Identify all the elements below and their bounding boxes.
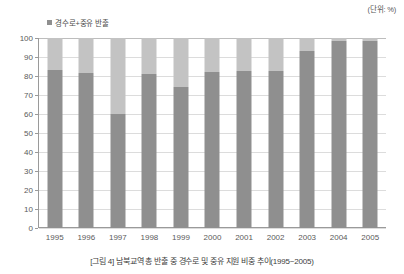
- bar-segment-reactor-oil: [142, 74, 157, 228]
- stacked-bar[interactable]: [331, 38, 346, 228]
- x-axis-tick-label: 1996: [77, 233, 95, 242]
- bar-slot: [291, 38, 323, 228]
- bar-segment-other: [205, 38, 220, 72]
- y-tick-mark: [35, 76, 38, 77]
- bar-slot: [323, 38, 355, 228]
- x-axis-tick-label: 2000: [204, 233, 222, 242]
- y-tick-mark: [35, 133, 38, 134]
- y-tick-mark: [35, 57, 38, 58]
- y-tick-mark: [35, 171, 38, 172]
- stacked-bar[interactable]: [142, 38, 157, 228]
- bar-segment-other: [142, 38, 157, 74]
- chart-legend: 경수로+중유 반출: [47, 17, 109, 28]
- x-axis-tick-label: 2005: [361, 233, 379, 242]
- bar-segment-other: [110, 38, 125, 114]
- y-tick-mark: [35, 228, 38, 229]
- bar-segment-reactor-oil: [268, 71, 283, 228]
- bar-segment-reactor-oil: [300, 51, 315, 228]
- bar-segment-other: [268, 38, 283, 71]
- bar-segment-reactor-oil: [363, 41, 378, 228]
- bar-segment-other: [300, 38, 315, 51]
- bar-segment-reactor-oil: [331, 41, 346, 228]
- y-tick-mark: [35, 38, 38, 39]
- x-axis-tick-label: 2001: [235, 233, 253, 242]
- bar-slot: [39, 38, 71, 228]
- x-axis-tick-label: 2002: [267, 233, 285, 242]
- bar-segment-reactor-oil: [205, 72, 220, 228]
- bar-segment-other: [79, 38, 94, 73]
- x-axis-tick-label: 1995: [46, 233, 64, 242]
- bar-slot: [228, 38, 260, 228]
- bar-slot: [197, 38, 229, 228]
- y-axis-tick-label: 90: [24, 53, 33, 62]
- bar-segment-reactor-oil: [237, 71, 252, 228]
- bar-segment-reactor-oil: [47, 70, 62, 228]
- bar-segment-reactor-oil: [110, 114, 125, 228]
- bar-slot: [354, 38, 386, 228]
- x-axis-tick-label: 2004: [330, 233, 348, 242]
- x-axis-tick-label: 1997: [109, 233, 127, 242]
- y-axis-tick-label: 50: [24, 129, 33, 138]
- stacked-bar[interactable]: [363, 38, 378, 228]
- bar-segment-reactor-oil: [79, 73, 94, 228]
- y-tick-mark: [35, 95, 38, 96]
- bar-slot: [71, 38, 103, 228]
- bar-segment-other: [47, 38, 62, 70]
- stacked-bar[interactable]: [110, 38, 125, 228]
- bar-segment-other: [237, 38, 252, 71]
- unit-label: (단위: %): [368, 3, 396, 14]
- y-axis-tick-label: 100: [20, 34, 33, 43]
- stacked-bar[interactable]: [237, 38, 252, 228]
- stacked-bar[interactable]: [173, 38, 188, 228]
- legend-label: 경수로+중유 반출: [55, 17, 109, 28]
- bar-segment-reactor-oil: [173, 87, 188, 228]
- y-axis-tick-label: 20: [24, 186, 33, 195]
- bar-slot: [102, 38, 134, 228]
- plot-area: 0102030405060708090100: [38, 38, 386, 228]
- y-axis-tick-label: 40: [24, 148, 33, 157]
- stacked-bar[interactable]: [205, 38, 220, 228]
- y-axis-tick-label: 0: [29, 224, 33, 233]
- y-tick-mark: [35, 152, 38, 153]
- y-tick-mark: [35, 114, 38, 115]
- y-axis-tick-label: 80: [24, 72, 33, 81]
- x-axis-tick-label: 1998: [141, 233, 159, 242]
- x-axis-tick-label: 2003: [298, 233, 316, 242]
- figure-container: (단위: %) 경수로+중유 반출 0102030405060708090100…: [0, 0, 404, 274]
- stacked-bar[interactable]: [268, 38, 283, 228]
- stacked-bar[interactable]: [47, 38, 62, 228]
- stacked-bar[interactable]: [300, 38, 315, 228]
- bar-slot: [134, 38, 166, 228]
- y-axis-tick-label: 60: [24, 110, 33, 119]
- legend-swatch-icon: [47, 20, 52, 25]
- bars-layer: [39, 38, 386, 228]
- y-axis-tick-label: 10: [24, 205, 33, 214]
- y-tick-mark: [35, 190, 38, 191]
- y-tick-mark: [35, 209, 38, 210]
- gridline: [39, 228, 386, 229]
- bar-slot: [165, 38, 197, 228]
- y-axis-tick-label: 70: [24, 91, 33, 100]
- stacked-bar[interactable]: [79, 38, 94, 228]
- bar-slot: [260, 38, 292, 228]
- bar-segment-other: [173, 38, 188, 87]
- x-axis-tick-label: 1999: [172, 233, 190, 242]
- figure-caption: [그림 4] 남북교역 총 반출 중 경수로 및 중유 지원 비중 추이(199…: [0, 255, 404, 266]
- y-axis-tick-label: 30: [24, 167, 33, 176]
